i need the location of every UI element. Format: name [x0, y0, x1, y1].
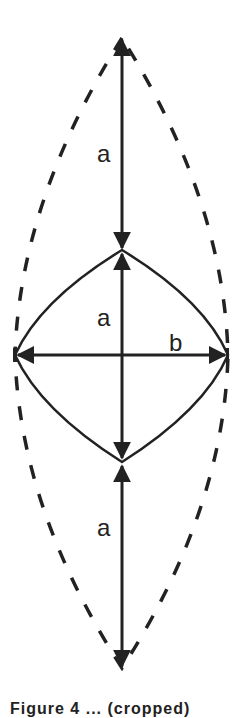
label-width-b: b [169, 329, 182, 356]
left-vertex-cap [13, 348, 17, 362]
right-vertex-cap [226, 348, 229, 362]
label-middle-a: a [97, 304, 111, 331]
figure-caption: Figure 4 ... (cropped) [10, 700, 190, 718]
label-lower-a: a [97, 514, 111, 541]
label-upper-a: a [97, 140, 111, 167]
